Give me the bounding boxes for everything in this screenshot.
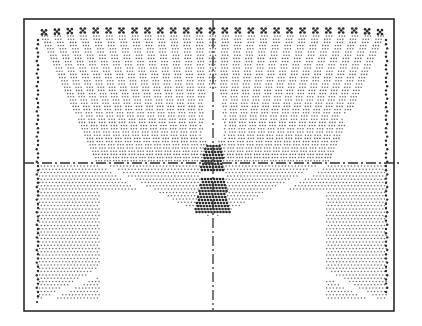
mesh-dot bbox=[274, 157, 276, 159]
mesh-dot bbox=[171, 115, 173, 117]
mesh-dot bbox=[328, 211, 330, 213]
mesh-dot bbox=[50, 51, 52, 53]
mesh-dot bbox=[342, 208, 344, 210]
mesh-dot bbox=[238, 35, 240, 37]
mesh-dot bbox=[249, 122, 251, 124]
mesh-dot bbox=[344, 178, 346, 180]
top-cluster-node bbox=[183, 27, 186, 30]
mesh-dot bbox=[367, 264, 369, 266]
mesh-dot bbox=[367, 225, 369, 227]
mesh-dot bbox=[192, 118, 194, 120]
mesh-dot bbox=[281, 165, 283, 167]
mesh-dot bbox=[242, 122, 244, 124]
mesh-dot bbox=[352, 274, 354, 276]
mesh-dot bbox=[239, 54, 241, 56]
mesh-dot bbox=[239, 185, 241, 187]
mesh-dot bbox=[175, 83, 177, 85]
mesh-dot bbox=[138, 67, 140, 69]
mesh-dot bbox=[232, 115, 234, 117]
mesh-dot bbox=[118, 138, 120, 140]
mesh-dot bbox=[97, 297, 99, 299]
mesh-dot bbox=[64, 77, 66, 79]
mesh-dot bbox=[362, 45, 364, 47]
mesh-dot bbox=[326, 42, 328, 44]
mesh-dot bbox=[341, 99, 343, 101]
mesh-dot bbox=[188, 67, 190, 69]
mesh-dot bbox=[339, 134, 341, 136]
mesh-dot bbox=[183, 150, 185, 152]
mesh-dot bbox=[98, 281, 100, 283]
mesh-dot bbox=[168, 188, 170, 190]
mesh-dot bbox=[55, 268, 57, 270]
mesh-dot bbox=[146, 83, 148, 85]
mesh-dot bbox=[228, 134, 230, 136]
mesh-dot bbox=[272, 154, 274, 156]
mesh-dot bbox=[292, 80, 294, 82]
mesh-dot bbox=[272, 58, 274, 60]
mesh-dot bbox=[280, 169, 282, 171]
right-edge-node bbox=[385, 68, 387, 70]
mesh-dot bbox=[298, 112, 300, 114]
mesh-dot bbox=[47, 205, 49, 207]
mesh-dot bbox=[90, 172, 92, 174]
mesh-dot bbox=[338, 131, 340, 133]
mesh-dot bbox=[180, 99, 182, 101]
mesh-dot bbox=[369, 64, 371, 66]
mesh-dot bbox=[54, 165, 56, 167]
mesh-dot bbox=[241, 102, 243, 104]
mesh-dot bbox=[341, 297, 343, 299]
mesh-dot bbox=[67, 61, 69, 63]
mesh-dot bbox=[111, 96, 113, 98]
mesh-dot bbox=[304, 122, 306, 124]
mesh-dot bbox=[252, 141, 254, 143]
mesh-dot bbox=[116, 178, 118, 180]
dense-node bbox=[225, 211, 228, 214]
mesh-dot bbox=[111, 141, 113, 143]
top-cluster-node bbox=[122, 31, 125, 34]
mesh-dot bbox=[260, 115, 262, 117]
mesh-dot bbox=[323, 144, 325, 146]
right-edge-node bbox=[385, 182, 387, 184]
mesh-dot bbox=[97, 178, 99, 180]
mesh-dot bbox=[306, 118, 308, 120]
mesh-dot bbox=[161, 134, 163, 136]
mesh-dot bbox=[234, 61, 236, 63]
mesh-dot bbox=[356, 188, 358, 190]
mesh-dot bbox=[151, 175, 153, 177]
mesh-dot bbox=[182, 144, 184, 146]
mesh-dot bbox=[175, 48, 177, 50]
mesh-dot bbox=[232, 165, 234, 167]
left-edge-node bbox=[37, 43, 39, 45]
mesh-dot bbox=[345, 64, 347, 66]
mesh-dot bbox=[173, 192, 175, 194]
mesh-dot bbox=[239, 131, 241, 133]
top-cluster-node bbox=[174, 27, 177, 30]
mesh-dot bbox=[296, 99, 298, 101]
mesh-dot bbox=[259, 144, 261, 146]
mesh-dot bbox=[113, 61, 115, 63]
mesh-dot bbox=[265, 38, 267, 40]
mesh-dot bbox=[333, 175, 335, 177]
mesh-dot bbox=[374, 238, 376, 240]
mesh-dot bbox=[93, 131, 95, 133]
mesh-dot bbox=[74, 225, 76, 227]
mesh-dot bbox=[286, 115, 288, 117]
mesh-dot bbox=[239, 172, 241, 174]
left-edge-node bbox=[37, 182, 39, 184]
mesh-dot bbox=[333, 58, 335, 60]
top-node-clusters bbox=[41, 27, 384, 36]
mesh-dot bbox=[242, 125, 244, 127]
mesh-dot bbox=[222, 35, 224, 37]
mesh-dot bbox=[175, 147, 177, 149]
mesh-dot bbox=[69, 274, 71, 276]
mesh-dot bbox=[212, 35, 214, 37]
mesh-dot bbox=[150, 128, 152, 130]
top-cluster-node bbox=[83, 31, 86, 34]
mesh-dot bbox=[168, 169, 170, 171]
mesh-dot bbox=[115, 150, 117, 152]
mesh-dot bbox=[286, 154, 288, 156]
mesh-dot bbox=[319, 125, 321, 127]
mesh-dot bbox=[346, 188, 348, 190]
mesh-dot bbox=[138, 109, 140, 111]
mesh-dot bbox=[96, 74, 98, 76]
